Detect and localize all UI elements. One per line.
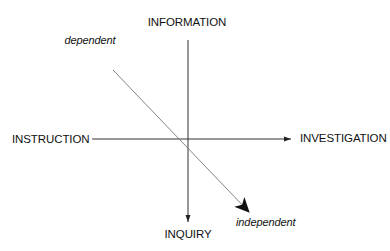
diagonal-label-start: dependent [64, 34, 115, 46]
diagram-canvas [0, 0, 390, 251]
diagonal-arrow [113, 70, 249, 212]
axis-label-top: INFORMATION [148, 16, 227, 28]
axis-label-bottom: INQUIRY [164, 228, 211, 240]
axis-label-left: INSTRUCTION [12, 133, 89, 145]
diagonal-label-end: independent [236, 216, 295, 228]
axis-label-right: INVESTIGATION [300, 132, 387, 144]
